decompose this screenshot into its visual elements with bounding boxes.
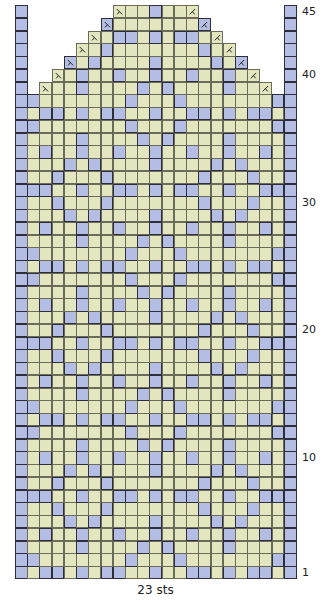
- chart-cell: [137, 222, 150, 235]
- chart-cell: [259, 145, 272, 158]
- chart-cell: [259, 553, 272, 566]
- chart-cell: [174, 286, 187, 299]
- chart-cell: [39, 337, 52, 350]
- chart-cell: [198, 311, 211, 324]
- chart-cell: [272, 464, 285, 477]
- chart-cell: [113, 5, 126, 18]
- chart-cell: [198, 158, 211, 171]
- chart-cell: [272, 158, 285, 171]
- chart-cell: [259, 400, 272, 413]
- chart-cell: [284, 464, 297, 477]
- chart-cell: [15, 311, 28, 324]
- chart-cell: [76, 426, 89, 439]
- chart-cell: [52, 120, 65, 133]
- chart-cell: [52, 82, 65, 95]
- chart-cell: [186, 56, 199, 69]
- chart-cell: [137, 145, 150, 158]
- chart-cell: [162, 120, 175, 133]
- chart-cell: [211, 196, 224, 209]
- chart-cell: [113, 400, 126, 413]
- chart-cell: [125, 439, 138, 452]
- chart-cell: [27, 362, 40, 375]
- chart-cell: [259, 451, 272, 464]
- chart-cell: [162, 439, 175, 452]
- chart-cell: [125, 464, 138, 477]
- chart-cell: [15, 451, 28, 464]
- chart-cell: [15, 515, 28, 528]
- chart-cell: [76, 311, 89, 324]
- chart-cell: [259, 235, 272, 248]
- chart-cell: [235, 553, 248, 566]
- chart-cell: [113, 31, 126, 44]
- chart-cell: [88, 171, 101, 184]
- chart-cell: [137, 5, 150, 18]
- chart-cell: [259, 349, 272, 362]
- chart-cell: [52, 260, 65, 273]
- chart-cell: [149, 184, 162, 197]
- chart-cell: [88, 490, 101, 503]
- chart-cell: [247, 107, 260, 120]
- chart-cell: [186, 566, 199, 579]
- chart-cell: [211, 120, 224, 133]
- chart-cell: [113, 120, 126, 133]
- chart-cell: [174, 145, 187, 158]
- chart-cell: [174, 247, 187, 260]
- chart-cell: [113, 515, 126, 528]
- chart-cell: [125, 553, 138, 566]
- chart-cell: [125, 515, 138, 528]
- chart-cell: [149, 158, 162, 171]
- chart-cell: [64, 477, 77, 490]
- chart-cell: [198, 400, 211, 413]
- chart-cell: [162, 502, 175, 515]
- chart-cell: [272, 426, 285, 439]
- chart-cell: [137, 337, 150, 350]
- chart-cell: [52, 184, 65, 197]
- chart-cell: [76, 196, 89, 209]
- chart-cell: [149, 375, 162, 388]
- chart-cell: [39, 362, 52, 375]
- chart-cell: [272, 196, 285, 209]
- chart-cell: [198, 31, 211, 44]
- chart-cell: [101, 171, 114, 184]
- chart-cell: [272, 184, 285, 197]
- chart-cell: [39, 196, 52, 209]
- chart-cell: [223, 171, 236, 184]
- chart-cell: [64, 196, 77, 209]
- chart-cell: [259, 541, 272, 554]
- chart-cell: [15, 426, 28, 439]
- chart-cell: [284, 107, 297, 120]
- chart-cell: [137, 43, 150, 56]
- chart-cell: [162, 222, 175, 235]
- chart-cell: [149, 502, 162, 515]
- chart-cell: [247, 298, 260, 311]
- chart-cell: [149, 439, 162, 452]
- chart-cell: [137, 477, 150, 490]
- chart-cell: [247, 171, 260, 184]
- chart-cell: [174, 426, 187, 439]
- chart-cell: [174, 82, 187, 95]
- chart-cell: [125, 400, 138, 413]
- chart-cell: [101, 247, 114, 260]
- chart-cell: [125, 209, 138, 222]
- chart-cell: [15, 260, 28, 273]
- chart-cell: [174, 502, 187, 515]
- chart-cell: [198, 502, 211, 515]
- chart-cell: [15, 375, 28, 388]
- chart-cell: [64, 56, 77, 69]
- chart-cell: [211, 349, 224, 362]
- chart-cell: [88, 184, 101, 197]
- chart-cell: [272, 477, 285, 490]
- chart-cell: [64, 349, 77, 362]
- chart-cell: [186, 209, 199, 222]
- chart-cell: [88, 196, 101, 209]
- chart-cell: [272, 528, 285, 541]
- chart-cell: [223, 515, 236, 528]
- chart-cell: [76, 451, 89, 464]
- chart-cell: [162, 388, 175, 401]
- chart-cell: [198, 273, 211, 286]
- chart-cell: [149, 145, 162, 158]
- chart-cell: [162, 515, 175, 528]
- chart-cell: [137, 82, 150, 95]
- chart-cell: [223, 133, 236, 146]
- chart-cell: [101, 490, 114, 503]
